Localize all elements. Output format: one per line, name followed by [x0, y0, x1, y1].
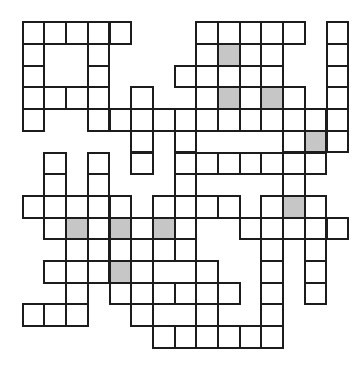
crossword-cell[interactable]	[217, 152, 241, 176]
crossword-cell[interactable]	[260, 217, 284, 241]
crossword-cell[interactable]	[304, 238, 328, 262]
crossword-cell[interactable]	[260, 325, 284, 349]
crossword-cell[interactable]	[152, 108, 176, 132]
crossword-cell[interactable]	[87, 217, 111, 241]
crossword-cell[interactable]	[152, 217, 176, 241]
crossword-cell[interactable]	[195, 43, 219, 67]
crossword-cell[interactable]	[326, 108, 350, 132]
crossword-cell[interactable]	[239, 152, 263, 176]
crossword-cell[interactable]	[195, 108, 219, 132]
crossword-cell[interactable]	[65, 195, 89, 219]
crossword-cell[interactable]	[217, 43, 241, 67]
crossword-cell[interactable]	[304, 152, 328, 176]
crossword-cell[interactable]	[304, 195, 328, 219]
crossword-cell[interactable]	[217, 195, 241, 219]
crossword-cell[interactable]	[130, 260, 154, 284]
crossword-cell[interactable]	[174, 303, 198, 327]
crossword-cell[interactable]	[109, 21, 133, 45]
crossword-cell[interactable]	[260, 21, 284, 45]
crossword-cell[interactable]	[260, 108, 284, 132]
crossword-cell[interactable]	[43, 21, 67, 45]
crossword-cell[interactable]	[174, 108, 198, 132]
crossword-cell[interactable]	[152, 238, 176, 262]
crossword-cell[interactable]	[282, 108, 306, 132]
crossword-cell[interactable]	[195, 21, 219, 45]
crossword-cell[interactable]	[282, 217, 306, 241]
crossword-cell[interactable]	[217, 108, 241, 132]
crossword-cell[interactable]	[174, 282, 198, 306]
crossword-cell[interactable]	[326, 65, 350, 89]
crossword-cell[interactable]	[130, 130, 154, 154]
crossword-cell[interactable]	[174, 238, 198, 262]
crossword-cell[interactable]	[130, 108, 154, 132]
crossword-cell[interactable]	[43, 152, 67, 176]
crossword-cell[interactable]	[326, 217, 350, 241]
crossword-cell[interactable]	[87, 108, 111, 132]
crossword-cell[interactable]	[65, 217, 89, 241]
crossword-cell[interactable]	[43, 303, 67, 327]
crossword-cell[interactable]	[217, 282, 241, 306]
crossword-cell[interactable]	[260, 195, 284, 219]
crossword-cell[interactable]	[195, 152, 219, 176]
crossword-cell[interactable]	[87, 43, 111, 67]
crossword-cell[interactable]	[217, 86, 241, 110]
crossword-cell[interactable]	[22, 43, 46, 67]
crossword-cell[interactable]	[43, 217, 67, 241]
crossword-cell[interactable]	[174, 217, 198, 241]
crossword-cell[interactable]	[87, 173, 111, 197]
crossword-cell[interactable]	[130, 238, 154, 262]
crossword-cell[interactable]	[217, 21, 241, 45]
crossword-cell[interactable]	[43, 260, 67, 284]
crossword-cell[interactable]	[304, 108, 328, 132]
crossword-cell[interactable]	[239, 108, 263, 132]
crossword-cell[interactable]	[43, 86, 67, 110]
crossword-cell[interactable]	[260, 238, 284, 262]
crossword-cell[interactable]	[152, 260, 176, 284]
crossword-cell[interactable]	[282, 130, 306, 154]
crossword-cell[interactable]	[109, 282, 133, 306]
crossword-cell[interactable]	[65, 282, 89, 306]
crossword-cell[interactable]	[239, 217, 263, 241]
crossword-cell[interactable]	[260, 86, 284, 110]
crossword-cell[interactable]	[260, 43, 284, 67]
crossword-cell[interactable]	[326, 43, 350, 67]
crossword-cell[interactable]	[282, 195, 306, 219]
crossword-cell[interactable]	[282, 86, 306, 110]
crossword-cell[interactable]	[22, 21, 46, 45]
crossword-cell[interactable]	[239, 303, 263, 327]
crossword-cell[interactable]	[217, 325, 241, 349]
crossword-cell[interactable]	[152, 195, 176, 219]
crossword-cell[interactable]	[65, 303, 89, 327]
crossword-cell[interactable]	[130, 217, 154, 241]
crossword-cell[interactable]	[174, 260, 198, 284]
crossword-cell[interactable]	[152, 303, 176, 327]
crossword-cell[interactable]	[152, 325, 176, 349]
crossword-cell[interactable]	[260, 260, 284, 284]
crossword-cell[interactable]	[22, 65, 46, 89]
crossword-cell[interactable]	[282, 173, 306, 197]
crossword-cell[interactable]	[239, 325, 263, 349]
crossword-cell[interactable]	[130, 86, 154, 110]
crossword-cell[interactable]	[174, 195, 198, 219]
crossword-cell[interactable]	[22, 108, 46, 132]
crossword-cell[interactable]	[195, 260, 219, 284]
crossword-cell[interactable]	[260, 152, 284, 176]
crossword-cell[interactable]	[195, 195, 219, 219]
crossword-cell[interactable]	[87, 86, 111, 110]
crossword-cell[interactable]	[195, 303, 219, 327]
crossword-cell[interactable]	[282, 21, 306, 45]
crossword-cell[interactable]	[65, 21, 89, 45]
crossword-cell[interactable]	[195, 282, 219, 306]
crossword-cell[interactable]	[217, 65, 241, 89]
crossword-cell[interactable]	[130, 282, 154, 306]
crossword-cell[interactable]	[22, 303, 46, 327]
crossword-cell[interactable]	[87, 260, 111, 284]
crossword-cell[interactable]	[239, 43, 263, 67]
crossword-cell[interactable]	[174, 130, 198, 154]
crossword-cell[interactable]	[109, 195, 133, 219]
crossword-cell[interactable]	[152, 282, 176, 306]
crossword-cell[interactable]	[109, 108, 133, 132]
crossword-cell[interactable]	[109, 260, 133, 284]
crossword-cell[interactable]	[130, 303, 154, 327]
crossword-cell[interactable]	[22, 195, 46, 219]
